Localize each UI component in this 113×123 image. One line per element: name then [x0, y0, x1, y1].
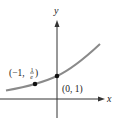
point-b-label: (0, 1): [62, 84, 83, 95]
point-0-1: [55, 74, 60, 79]
y-axis-label: y: [53, 5, 59, 16]
svg-text:e: e: [30, 74, 33, 80]
point-a-label: (−1, 1 e ): [9, 67, 38, 80]
exponential-graph: x y (−1, 1 e ) (0, 1): [0, 0, 113, 123]
svg-text:): ): [35, 68, 38, 79]
x-axis-arrow-icon: [98, 97, 105, 102]
point-neg1-inv-e: [33, 82, 38, 87]
svg-text:(−1,: (−1,: [9, 68, 25, 79]
x-axis-label: x: [106, 93, 112, 104]
svg-text:1: 1: [31, 67, 34, 73]
y-axis-arrow-icon: [55, 20, 60, 27]
